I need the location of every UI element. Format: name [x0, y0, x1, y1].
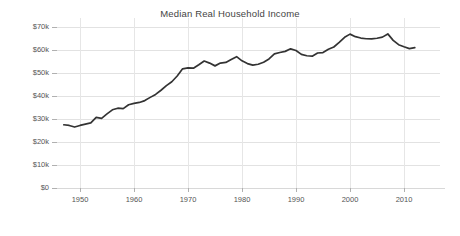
- x-tick-label: 2010: [396, 195, 413, 204]
- y-axis-ticks: [52, 28, 57, 189]
- chart-container: Median Real Household Income $0$10k$20k$…: [0, 0, 460, 236]
- y-tick-label: $40k: [33, 91, 50, 100]
- y-tick-label: $60k: [33, 45, 50, 54]
- x-tick-label: 1960: [126, 195, 143, 204]
- gridlines-vertical: [81, 18, 405, 188]
- y-tick-label: $30k: [33, 114, 50, 123]
- y-axis-tick-labels: $0$10k$20k$30k$40k$50k$60k$70k: [33, 22, 50, 192]
- y-tick-label: $0: [41, 183, 49, 192]
- x-tick-label: 2000: [342, 195, 359, 204]
- y-tick-label: $50k: [33, 68, 50, 77]
- chart-plot-area: $0$10k$20k$30k$40k$50k$60k$70k 195019601…: [0, 0, 460, 236]
- x-tick-label: 1980: [234, 195, 251, 204]
- x-tick-label: 1950: [72, 195, 89, 204]
- x-axis-tick-labels: 1950196019701980199020002010: [72, 195, 413, 204]
- x-tick-label: 1970: [180, 195, 197, 204]
- y-tick-label: $10k: [33, 160, 50, 169]
- data-series-line: [64, 34, 415, 127]
- gridlines-horizontal: [57, 28, 440, 189]
- x-tick-label: 1990: [288, 195, 305, 204]
- y-tick-label: $20k: [33, 137, 50, 146]
- y-tick-label: $70k: [33, 22, 50, 31]
- series-line: [64, 34, 415, 127]
